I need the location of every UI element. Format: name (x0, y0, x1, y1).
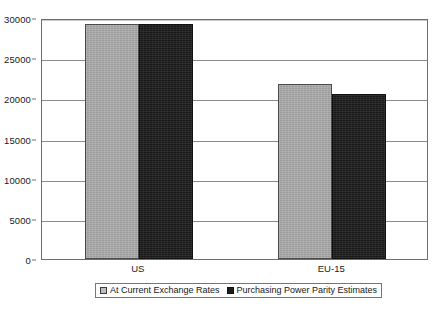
legend-label: Purchasing Power Parity Estimates (237, 286, 378, 295)
x-tick-label-us: US (131, 263, 144, 274)
x-tick-label-eu-15: EU-15 (318, 263, 345, 274)
y-tick-mark (32, 59, 36, 60)
y-tick-mark (32, 260, 36, 261)
y-tick-label: 5000 (9, 214, 31, 225)
y-tick-label: 20000 (4, 94, 31, 105)
bar-eu-15-series-2 (332, 94, 386, 259)
y-tick-mark (32, 219, 36, 220)
y-tick-label: 0 (26, 255, 31, 266)
bar-chart: 050001000015000200002500030000 USEU-15 A… (0, 0, 441, 311)
y-tick-mark (32, 99, 36, 100)
x-axis: USEU-15 (41, 263, 428, 279)
legend-entry-1[interactable]: At Current Exchange Rates (100, 286, 220, 295)
y-tick-label: 25000 (4, 54, 31, 65)
plot-area (41, 19, 428, 260)
legend-swatch-icon (100, 287, 107, 294)
chart-legend: At Current Exchange RatesPurchasing Powe… (95, 283, 382, 298)
y-tick-label: 10000 (4, 174, 31, 185)
bar-eu-15-series-1 (278, 84, 332, 259)
legend-swatch-icon (227, 287, 234, 294)
y-tick-mark (32, 179, 36, 180)
y-tick-mark (32, 19, 36, 20)
y-tick-label: 30000 (4, 14, 31, 25)
gridline (42, 20, 427, 21)
y-tick-label: 15000 (4, 134, 31, 145)
bar-us-series-1 (85, 24, 139, 259)
y-axis: 050001000015000200002500030000 (0, 19, 36, 260)
legend-label: At Current Exchange Rates (110, 286, 220, 295)
bar-us-series-2 (139, 24, 193, 259)
legend-entry-2[interactable]: Purchasing Power Parity Estimates (227, 286, 378, 295)
y-tick-mark (32, 139, 36, 140)
